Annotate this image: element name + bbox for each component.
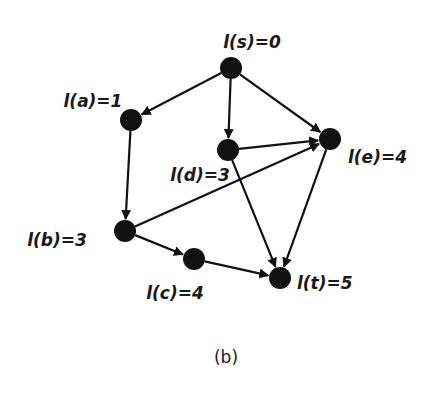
node-d	[217, 139, 239, 161]
labels-group: l(s)=0l(a)=1l(d)=3l(e)=4l(b)=3l(c)=4l(t)…	[27, 32, 407, 303]
node-label-c: l(c)=4	[146, 283, 204, 303]
edge-s-a	[142, 73, 222, 114]
edge-e-t	[284, 149, 326, 266]
edge-s-e	[240, 74, 320, 132]
edge-c-t	[205, 261, 269, 275]
edge-a-b	[126, 131, 131, 219]
edge-d-t	[232, 160, 275, 267]
graph-diagram: l(s)=0l(a)=1l(d)=3l(e)=4l(b)=3l(c)=4l(t)…	[0, 0, 442, 398]
node-label-e: l(e)=4	[348, 147, 407, 167]
node-label-t: l(t)=5	[297, 273, 353, 293]
edge-d-e	[239, 140, 318, 149]
node-label-a: l(a)=1	[64, 91, 123, 111]
edge-s-d	[228, 79, 230, 138]
node-label-s: l(s)=0	[223, 32, 281, 52]
node-e	[319, 128, 341, 150]
figure-caption: (b)	[214, 347, 238, 367]
node-label-d: l(d)=3	[170, 165, 230, 185]
node-c	[183, 248, 205, 270]
node-s	[220, 57, 242, 79]
node-b	[114, 220, 136, 242]
node-t	[269, 267, 291, 289]
node-a	[120, 109, 142, 131]
edge-b-c	[135, 235, 183, 254]
node-label-b: l(b)=3	[27, 230, 87, 250]
